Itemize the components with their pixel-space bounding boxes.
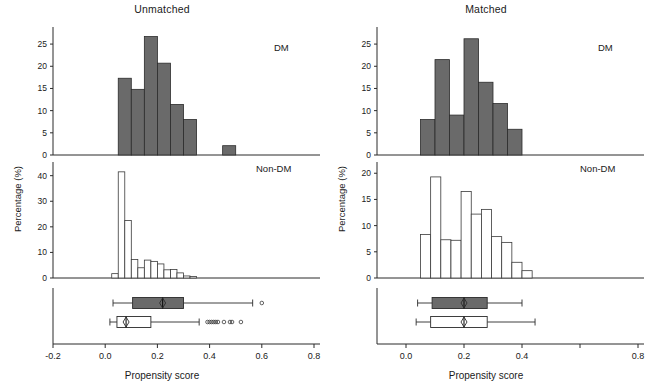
histogram-bar-nondm xyxy=(157,264,164,278)
histogram-bar-nondm xyxy=(164,270,171,278)
y-tick-label-nondm: 5 xyxy=(366,247,371,257)
histogram-bar-nondm xyxy=(471,214,481,278)
x-tick-label: 0.0 xyxy=(400,351,413,361)
y-tick-label-dm: 25 xyxy=(362,39,372,49)
y-tick-label-dm: 0 xyxy=(42,150,47,160)
histogram-bar-nondm xyxy=(118,172,125,278)
y-tick-label-nondm: 0 xyxy=(42,273,47,283)
y-tick-label-nondm: 0 xyxy=(366,273,371,283)
boxplot-outlier xyxy=(239,320,243,324)
histogram-bar-dm xyxy=(157,63,170,155)
boxplot-group: -0.20.00.20.40.60.8 xyxy=(45,288,320,361)
histogram-nondm: 05101520 xyxy=(362,162,644,283)
histogram-bar-dm xyxy=(170,104,183,155)
y-tick-label-nondm: 30 xyxy=(38,196,48,206)
histogram-nondm: 010203040 xyxy=(38,162,320,283)
plot-area-matched: 0510152025051015200.00.20.40.8 xyxy=(324,0,648,392)
histogram-bar-dm xyxy=(421,120,436,155)
histogram-bar-nondm xyxy=(522,271,532,278)
histogram-bar-nondm xyxy=(512,262,522,278)
y-tick-label-dm: 10 xyxy=(362,106,372,116)
histogram-bar-dm xyxy=(450,115,465,155)
x-tick-label: 0.4 xyxy=(516,351,529,361)
histogram-dm: 0510152025 xyxy=(38,27,320,160)
histogram-bar-nondm xyxy=(451,240,461,278)
plot-area-unmatched: 0510152025010203040-0.20.00.20.40.60.8 xyxy=(0,0,324,392)
boxplot-dm xyxy=(418,298,522,309)
boxplot-dm xyxy=(113,298,264,309)
x-axis-label-right: Propensity score xyxy=(324,370,648,381)
x-tick-label: 0.2 xyxy=(151,351,164,361)
histogram-bar-nondm xyxy=(151,261,158,278)
histogram-dm: 0510152025 xyxy=(362,27,644,160)
histogram-bar-nondm xyxy=(184,276,191,278)
histogram-bar-dm xyxy=(144,37,157,155)
y-tick-label-nondm: 15 xyxy=(362,194,372,204)
histogram-bar-dm xyxy=(508,129,523,155)
histogram-bar-nondm xyxy=(177,273,184,278)
histogram-bar-nondm xyxy=(431,177,441,278)
histogram-bar-dm xyxy=(184,120,197,155)
histogram-bar-nondm xyxy=(131,260,138,278)
y-tick-label-nondm: 10 xyxy=(38,247,48,257)
y-tick-label-dm: 25 xyxy=(38,39,48,49)
y-tick-label-nondm: 20 xyxy=(38,222,48,232)
histogram-bar-nondm xyxy=(441,240,451,278)
histogram-bar-nondm xyxy=(492,237,502,278)
histogram-bar-dm xyxy=(118,78,131,155)
histogram-bar-nondm xyxy=(481,209,491,278)
x-tick-label: 0.8 xyxy=(632,351,645,361)
y-tick-label-dm: 5 xyxy=(42,128,47,138)
y-tick-label-nondm: 10 xyxy=(362,221,372,231)
y-tick-label-dm: 15 xyxy=(38,83,48,93)
histogram-bar-dm xyxy=(223,146,236,155)
histogram-bar-nondm xyxy=(170,270,177,278)
x-tick-label: 0.4 xyxy=(203,351,216,361)
x-tick-label: 0.6 xyxy=(256,351,269,361)
histogram-bar-dm xyxy=(435,60,450,155)
x-tick-label: 0.8 xyxy=(308,351,321,361)
histogram-bar-nondm xyxy=(190,276,197,278)
boxplot-outlier xyxy=(222,320,226,324)
boxplot-nondm xyxy=(110,317,243,328)
x-tick-label: 0.2 xyxy=(458,351,471,361)
y-tick-label-dm: 0 xyxy=(366,150,371,160)
histogram-bar-nondm xyxy=(461,192,471,278)
propensity-score-figure: Unmatched Percentage (%) DM Non-DM 05101… xyxy=(0,0,648,392)
boxplot-nondm xyxy=(416,317,535,328)
y-tick-label-dm: 10 xyxy=(38,106,48,116)
panel-unmatched: Unmatched Percentage (%) DM Non-DM 05101… xyxy=(0,0,324,392)
histogram-bar-nondm xyxy=(421,235,431,278)
histogram-bar-dm xyxy=(493,104,508,155)
x-axis-label-left: Propensity score xyxy=(0,370,324,381)
histogram-bar-nondm xyxy=(144,260,151,278)
boxplot-outlier xyxy=(260,301,264,305)
panel-matched: Matched Percentage (%) DM Non-DM 0510152… xyxy=(324,0,648,392)
y-tick-label-nondm: 40 xyxy=(38,171,48,181)
x-tick-label: -0.2 xyxy=(45,351,61,361)
histogram-bar-nondm xyxy=(138,268,145,278)
y-tick-label-dm: 20 xyxy=(38,61,48,71)
x-tick-label: 0.0 xyxy=(99,351,112,361)
histogram-bar-dm xyxy=(131,89,144,155)
histogram-bar-dm xyxy=(464,39,479,155)
histogram-bar-nondm xyxy=(112,274,119,278)
boxplot-group: 0.00.20.40.8 xyxy=(377,288,644,361)
y-tick-label-dm: 15 xyxy=(362,83,372,93)
histogram-bar-nondm xyxy=(125,220,132,278)
histogram-bar-nondm xyxy=(502,242,512,278)
y-tick-label-nondm: 20 xyxy=(362,168,372,178)
histogram-bar-dm xyxy=(479,82,494,155)
y-tick-label-dm: 20 xyxy=(362,61,372,71)
y-tick-label-dm: 5 xyxy=(366,128,371,138)
